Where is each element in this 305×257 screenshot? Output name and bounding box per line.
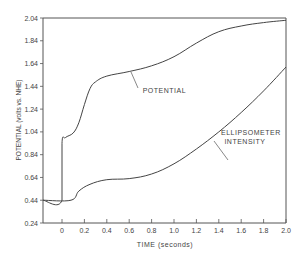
- x-tick-label: 1.6: [236, 227, 246, 234]
- x-tick-label: 2.0: [281, 227, 291, 234]
- x-tick-label: 1.0: [169, 227, 179, 234]
- y-tick-label: 1.84: [24, 37, 38, 44]
- potential-time-chart: 0.240.440.640.841.041.241.441.641.842.04…: [0, 0, 305, 257]
- x-tick-label: 0.2: [80, 227, 90, 234]
- x-tick-label: 1.4: [214, 227, 224, 234]
- curve-annotations: POTENTIALELLIPSOMETERINTENSITY: [131, 72, 281, 160]
- y-axis-ticks: 0.240.440.640.841.041.241.441.641.842.04: [24, 15, 43, 227]
- y-tick-label: 0.84: [24, 151, 38, 158]
- x-tick-label: 0.6: [124, 227, 134, 234]
- x-axis-label: TIME (seconds): [137, 241, 193, 249]
- annotation-label: POTENTIAL: [143, 87, 186, 94]
- potential-leader-line: [131, 72, 138, 88]
- y-tick-label: 2.04: [24, 15, 38, 22]
- y-axis-label: POTENTIAL (volts vs. NHE): [15, 79, 23, 160]
- y-tick-label: 0.64: [24, 174, 38, 181]
- y-tick-label: 1.64: [24, 60, 38, 67]
- x-tick-label: 0: [60, 227, 64, 234]
- x-tick-label: 1.2: [192, 227, 202, 234]
- x-tick-label: 0.8: [147, 227, 157, 234]
- y-tick-label: 0.24: [24, 220, 38, 227]
- annotation-label: ELLIPSOMETER: [221, 129, 281, 136]
- x-tick-label: 0.4: [102, 227, 112, 234]
- potential-curve: [43, 20, 286, 204]
- x-axis-ticks: 00.20.40.60.81.01.21.41.61.82.0: [60, 219, 291, 234]
- y-tick-label: 1.04: [24, 128, 38, 135]
- annotation-label: INTENSITY: [224, 138, 265, 145]
- x-tick-label: 1.8: [259, 227, 269, 234]
- data-series: [43, 20, 286, 204]
- y-tick-label: 0.44: [24, 197, 38, 204]
- y-tick-label: 1.44: [24, 83, 38, 90]
- y-tick-label: 1.24: [24, 106, 38, 113]
